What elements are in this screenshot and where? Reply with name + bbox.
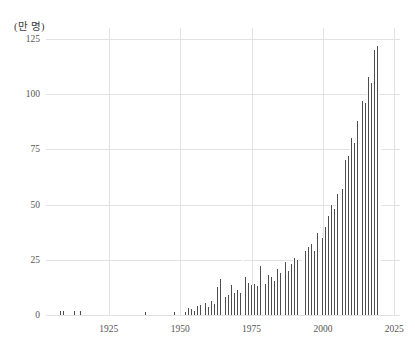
y-tick-0: 0 bbox=[35, 310, 40, 320]
bar-1909 bbox=[62, 311, 65, 315]
x-tick-2000: 2000 bbox=[313, 324, 332, 334]
chart-figure: (만 명) 0255075100125 19251950197520002025 bbox=[0, 0, 415, 358]
bar-1948 bbox=[173, 312, 176, 315]
y-axis-unit-label: (만 명) bbox=[14, 18, 45, 33]
gridline-y-75 bbox=[46, 149, 400, 150]
x-tick-1950: 1950 bbox=[171, 324, 190, 334]
gridline-y-100 bbox=[46, 94, 400, 95]
x-tick-1925: 1925 bbox=[99, 324, 118, 334]
gridline-x-1950 bbox=[180, 28, 181, 315]
x-tick-2025: 2025 bbox=[385, 324, 404, 334]
y-tick-75: 75 bbox=[31, 144, 41, 154]
y-tick-25: 25 bbox=[31, 255, 41, 265]
gridline-x-2025 bbox=[394, 28, 395, 315]
gridline-y-0 bbox=[46, 315, 400, 316]
bar-1913 bbox=[73, 311, 76, 315]
gridline-x-1925 bbox=[109, 28, 110, 315]
y-tick-125: 125 bbox=[26, 34, 40, 44]
bar-2020 bbox=[379, 105, 382, 315]
gridline-y-125 bbox=[46, 39, 400, 40]
y-tick-50: 50 bbox=[31, 200, 41, 210]
plot-area: 0255075100125 19251950197520002025 bbox=[46, 28, 400, 315]
x-tick-1975: 1975 bbox=[242, 324, 261, 334]
gridline-x-1975 bbox=[252, 28, 253, 315]
y-tick-100: 100 bbox=[26, 89, 40, 99]
bar-1915 bbox=[79, 311, 82, 315]
bar-1938 bbox=[144, 312, 147, 315]
